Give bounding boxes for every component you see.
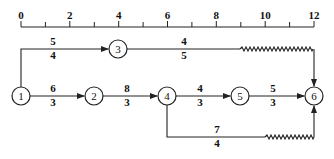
tick-label-6: 6 [165,9,171,21]
edge-5-6-bottom: 3 [270,96,276,108]
edge-4-5-top: 4 [197,82,203,94]
node-1: 1 [12,87,30,105]
tick-label-4: 4 [116,9,122,21]
node-2-label: 2 [91,90,97,102]
tick-label-0: 0 [18,9,24,21]
tick-label-12: 12 [309,9,321,21]
edge-1-2-bottom: 3 [50,96,56,108]
node-4: 4 [158,87,176,105]
edge-2-4-top: 8 [124,82,130,94]
edge-4-6-bottom: 4 [214,137,220,149]
node-5-label: 5 [237,90,243,102]
float-wave-4-6 [265,135,314,139]
edge-2-4-bottom: 3 [124,96,130,108]
node-6-label: 6 [311,90,317,102]
tick-label-2: 2 [67,9,73,21]
edge-4-6-top: 7 [214,123,220,135]
edge-1-2-top: 6 [50,82,56,94]
edge-3-6-top: 4 [181,35,187,47]
tick-label-10: 10 [260,9,272,21]
tick-label-8: 8 [214,9,220,21]
node-3: 3 [109,40,127,58]
node-6: 6 [305,87,323,105]
edge-3-6-bottom: 5 [181,49,187,61]
node-1-label: 1 [18,90,24,102]
node-5: 5 [231,87,249,105]
edge-5-6-top: 5 [270,82,276,94]
node-2: 2 [85,87,103,105]
time-scale: 0 2 4 6 8 10 12 [18,9,320,27]
float-wave-3-6 [240,47,313,51]
network-diagram: 0 2 4 6 8 10 12 5 4 4 5 6 3 8 3 [0,0,334,159]
edge-4-5-bottom: 3 [197,96,203,108]
edge-1-3 [21,49,108,87]
node-3-label: 3 [115,43,121,55]
edge-1-3-top: 5 [50,35,56,47]
node-4-label: 4 [164,90,170,102]
edge-1-3-bottom: 4 [50,49,56,61]
